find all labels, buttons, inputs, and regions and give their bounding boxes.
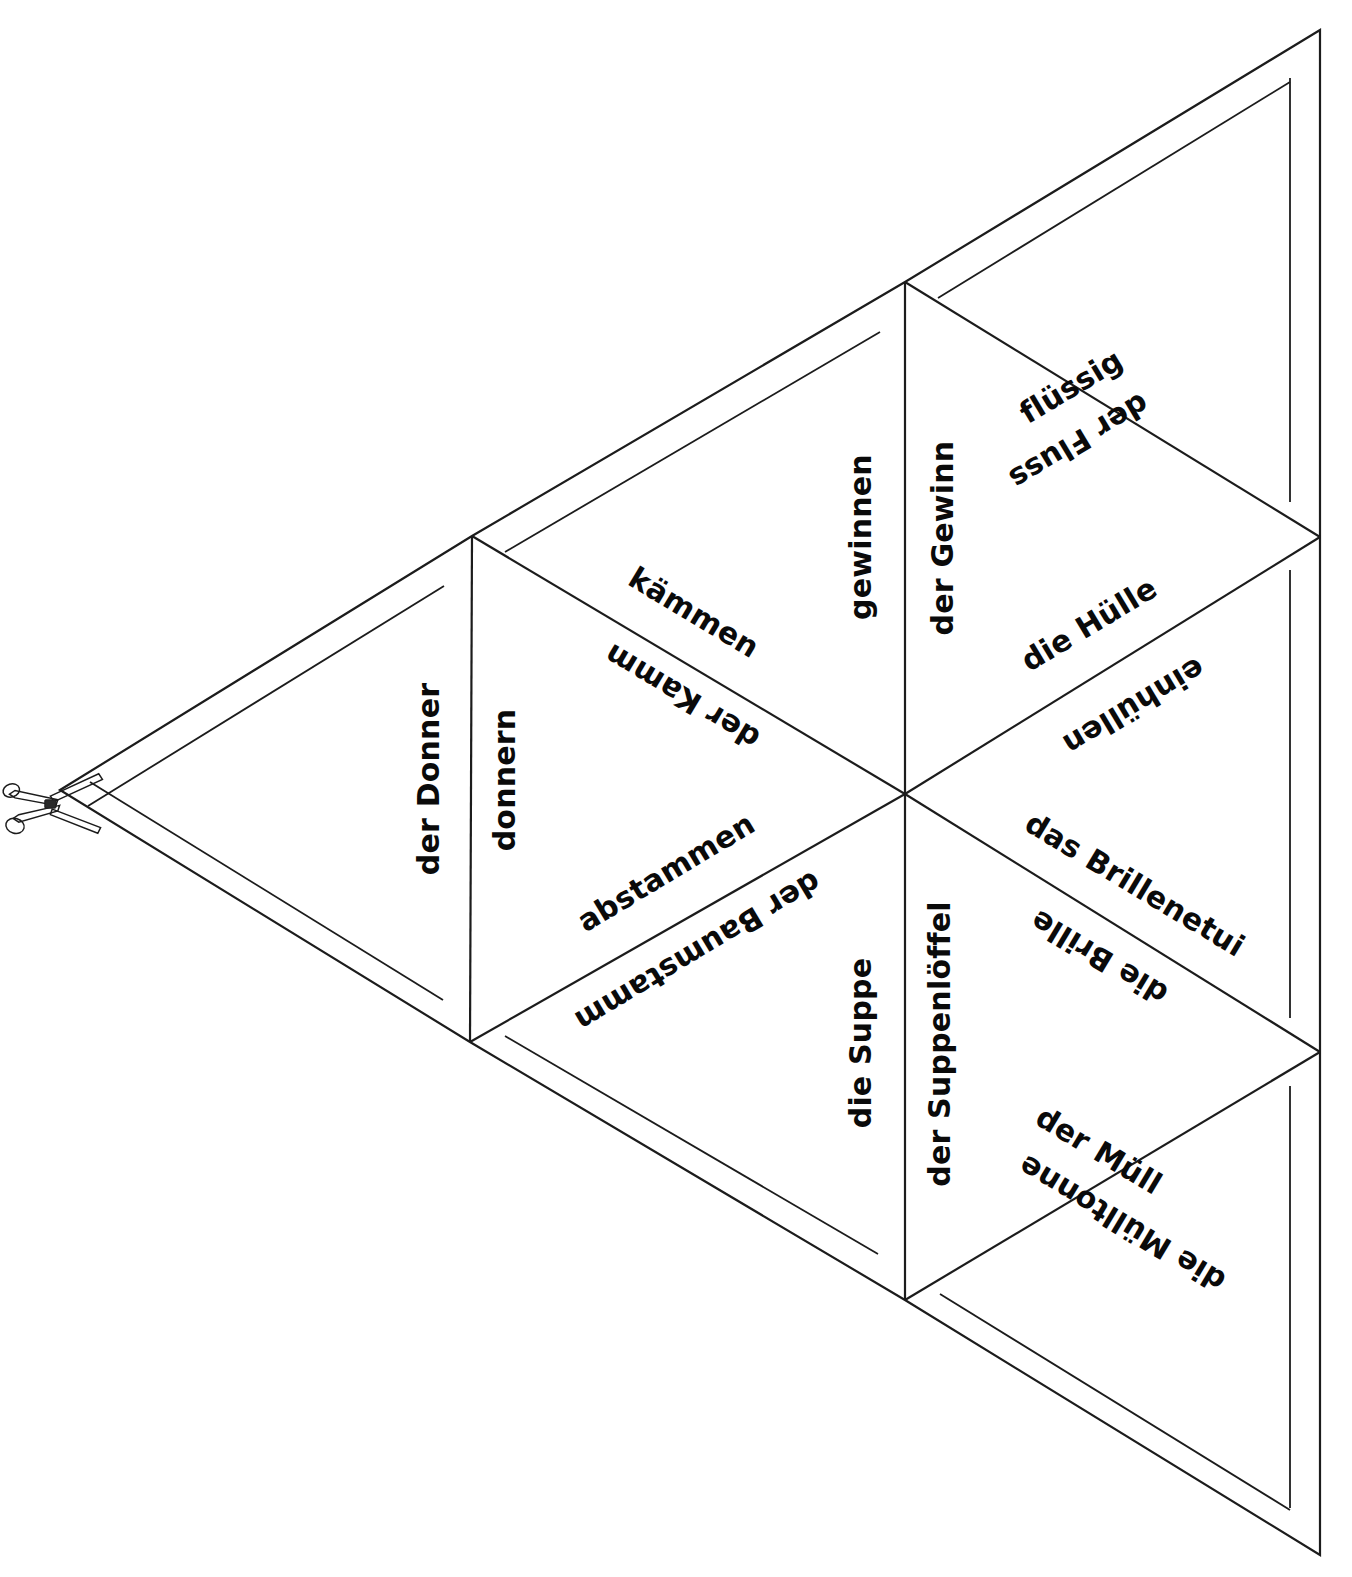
worksheet-sheet: flüssig der Fluss gewinnen der Gewinn di…	[0, 0, 1352, 1577]
grid-line-right-upper-diagonal	[905, 537, 1320, 794]
grid-line-lower-left-diagonal	[470, 794, 905, 1042]
fold-hairline-bottom-left	[90, 782, 443, 1000]
label-einhuellen: einhüllen	[1057, 651, 1211, 763]
outer-cut-outline	[60, 30, 1320, 1555]
grid-line-right-lower-diagonal	[905, 794, 1320, 1052]
scissors-icon	[1, 774, 102, 836]
fold-hairline-bottom-right	[940, 1294, 1290, 1510]
fold-hairline-top-left	[88, 586, 444, 806]
grid-line-left-vertical	[470, 536, 472, 1042]
label-der-donner: der Donner	[411, 683, 446, 875]
label-die-brille: die Brille	[1024, 903, 1174, 1012]
label-gewinnen: gewinnen	[843, 454, 878, 620]
glue-tab-fold-lines	[88, 78, 1290, 1510]
trimino-net-diagram: flüssig der Fluss gewinnen der Gewinn di…	[0, 0, 1352, 1577]
fold-hairline-bottom-mid	[505, 1036, 878, 1254]
label-die-huelle: die Hülle	[1015, 570, 1163, 678]
label-der-gewinn: der Gewinn	[925, 441, 960, 636]
inner-grid-lines	[470, 282, 1320, 1300]
label-donnern: donnern	[487, 709, 522, 852]
grid-line-upper-left-diagonal	[472, 536, 905, 794]
label-die-suppe: die Suppe	[843, 958, 878, 1129]
fold-hairline-top-mid	[505, 332, 880, 552]
label-kaemmen: kämmen	[623, 560, 766, 665]
fold-hairline-top-right	[938, 82, 1290, 298]
label-der-suppenloeffel: der Suppenlöffel	[922, 901, 957, 1187]
